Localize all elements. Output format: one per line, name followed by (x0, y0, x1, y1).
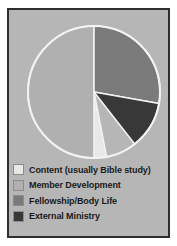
pie-slice[interactable] (94, 26, 160, 103)
pie-chart-area (9, 10, 168, 162)
pie-slice[interactable] (28, 26, 94, 158)
legend-item-member-development[interactable]: Member Development (13, 178, 168, 194)
legend-label-content: Content (usually Bible study) (29, 165, 151, 175)
legend-item-content[interactable]: Content (usually Bible study) (13, 162, 168, 178)
legend-label-external-ministry: External Ministry (29, 211, 100, 221)
legend-item-external-ministry[interactable]: External Ministry (13, 209, 168, 225)
legend-swatch-fellowship-body-life (13, 195, 24, 206)
figure-frame: Content (usually Bible study) Member Dev… (7, 8, 170, 238)
legend-swatch-external-ministry (13, 211, 24, 222)
pie-chart-svg (9, 10, 168, 162)
chart-legend: Content (usually Bible study) Member Dev… (9, 160, 168, 236)
legend-swatch-member-development (13, 180, 24, 191)
legend-swatch-content (13, 164, 24, 175)
legend-label-member-development: Member Development (29, 180, 121, 190)
legend-label-fellowship-body-life: Fellowship/Body Life (29, 196, 117, 206)
legend-item-fellowship-body-life[interactable]: Fellowship/Body Life (13, 193, 168, 209)
